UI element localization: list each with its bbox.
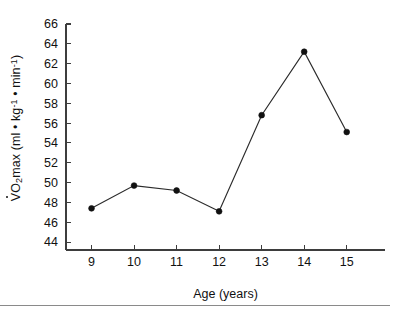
y-tick-label: 44	[44, 235, 58, 249]
v-dot-symbol: V	[9, 193, 23, 201]
y-tick-label: 52	[44, 156, 58, 170]
line-chart: 4446485052545658606264669101112131415Age…	[0, 0, 410, 318]
x-tick-label: 14	[297, 255, 311, 269]
data-line	[92, 52, 347, 212]
figure-container: 4446485052545658606264669101112131415Age…	[0, 0, 410, 318]
data-point	[174, 188, 180, 194]
data-point	[259, 112, 265, 118]
data-point	[216, 208, 222, 214]
x-tick-label: 12	[212, 255, 226, 269]
data-point	[131, 183, 137, 189]
y-tick-label: 58	[44, 97, 58, 111]
x-tick-label: 9	[88, 255, 95, 269]
y-tick-label: 48	[44, 196, 58, 210]
y-tick-label: 50	[44, 176, 58, 190]
x-tick-label: 10	[127, 255, 141, 269]
x-tick-label: 11	[170, 255, 183, 269]
data-point	[301, 49, 307, 55]
y-tick-label: 54	[44, 136, 58, 150]
y-tick-label: 46	[44, 216, 58, 230]
y-tick-label: 66	[44, 17, 58, 31]
y-tick-label: 56	[44, 117, 58, 131]
y-tick-label: 62	[44, 57, 58, 71]
footer-rule	[0, 305, 390, 306]
y-tick-label: 64	[44, 37, 58, 51]
data-point	[344, 129, 350, 135]
y-axis-title: VO2max (ml • kg-1 • min-1)	[9, 13, 29, 243]
y-tick-label: 60	[44, 77, 58, 91]
x-tick-label: 13	[255, 255, 269, 269]
data-point	[89, 205, 95, 211]
x-tick-label: 15	[340, 255, 354, 269]
x-axis-title: Age (years)	[193, 287, 258, 301]
